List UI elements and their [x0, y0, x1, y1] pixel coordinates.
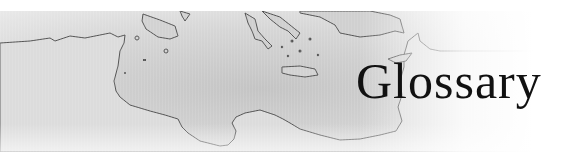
header-banner: Glossary: [0, 11, 580, 152]
page-title: Glossary: [356, 51, 542, 111]
